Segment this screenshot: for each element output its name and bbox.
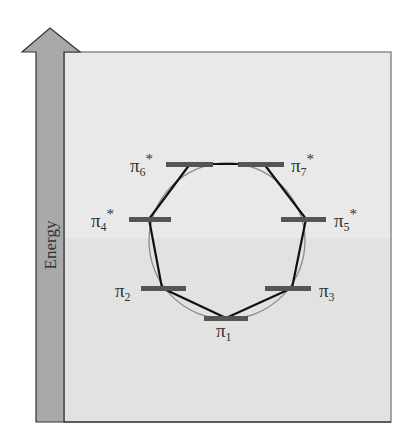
- level-bar-pi7: [238, 162, 284, 167]
- level-bar-pi4: [129, 217, 171, 222]
- energy-axis-label: Energy: [41, 220, 60, 269]
- level-bar-pi1: [204, 316, 248, 321]
- level-bar-pi2: [141, 286, 186, 291]
- level-bar-pi5: [281, 217, 326, 222]
- frost-circle-diagram: Energy π1 π2 π3 π4*: [0, 0, 411, 436]
- diagram-panel: [64, 52, 391, 422]
- level-bar-pi6: [166, 162, 213, 167]
- level-bar-pi3: [265, 286, 311, 291]
